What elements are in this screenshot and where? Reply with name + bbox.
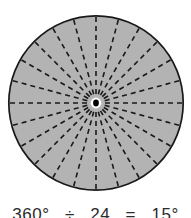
caption-divide-symbol: ÷ [65, 205, 75, 218]
circle-sector-diagram [0, 0, 191, 218]
circle-center-point [93, 100, 99, 107]
caption-result: 15° [152, 205, 179, 218]
caption-total-degrees: 360° [12, 205, 49, 218]
caption-divisor: 24 [90, 205, 110, 218]
pie-diagram-figure: 360° ÷ 24 = 15° [0, 0, 191, 218]
caption: 360° ÷ 24 = 15° [0, 205, 191, 218]
caption-equals-symbol: = [126, 205, 136, 218]
